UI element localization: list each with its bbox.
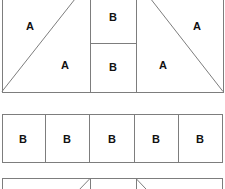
piece-label-b: B bbox=[109, 61, 117, 73]
piece-label-b: B bbox=[108, 133, 116, 145]
piece-label-a: A bbox=[61, 59, 69, 71]
left-square-fill bbox=[2, 0, 90, 92]
right-square-fill bbox=[136, 178, 223, 189]
piece-label-a: A bbox=[193, 20, 201, 32]
piece-label-b: B bbox=[109, 11, 117, 23]
top-band-center-column: B B bbox=[90, 0, 136, 92]
piece-label-b: B bbox=[196, 133, 204, 145]
piece-label-a: A bbox=[26, 20, 34, 32]
bottom-band bbox=[2, 178, 223, 189]
bottom-band-right-square bbox=[136, 178, 223, 189]
middle-band: B B B B B bbox=[2, 114, 223, 163]
center-column-fill bbox=[90, 178, 136, 189]
top-band-right-square: A A bbox=[136, 0, 223, 92]
top-band: A A B B A A bbox=[2, 0, 223, 92]
piece-label-b: B bbox=[19, 133, 27, 145]
piece-label-b: B bbox=[63, 133, 71, 145]
piece-label-a: A bbox=[159, 59, 167, 71]
bottom-band-center-column bbox=[90, 178, 136, 189]
left-square-fill bbox=[2, 178, 90, 189]
right-square-fill bbox=[136, 0, 223, 92]
bottom-band-left-square bbox=[2, 178, 90, 189]
piece-label-b: B bbox=[152, 133, 160, 145]
top-band-left-square: A A bbox=[2, 0, 90, 92]
pattern-diagram: A A B B A A bbox=[0, 0, 225, 189]
